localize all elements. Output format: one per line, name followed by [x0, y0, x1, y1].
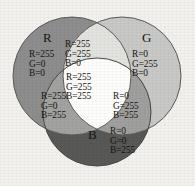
region-values-white: R=255 G=255 B=255	[66, 73, 92, 102]
region-values-red: R=255 G=0 B=0	[29, 50, 54, 79]
circle-label-blue: B	[88, 128, 97, 141]
region-values-blue: R=0 G=0 B=255	[110, 127, 135, 156]
region-values-cyan: R=0 G=255 B=255	[113, 92, 139, 121]
region-values-green: R=0 G=255 B=0	[132, 50, 158, 79]
circle-label-red: R	[43, 31, 52, 44]
circle-label-green: G	[142, 31, 151, 44]
venn-diagram-svg	[0, 0, 195, 186]
rgb-venn-diagram-figure: R G B R=255 G=0 B=0 R=0 G=255 B=0 R=0 G=…	[0, 0, 195, 186]
region-values-yellow: R=255 G=255 B=0	[65, 40, 91, 69]
region-values-magenta: R=255 G=0 B=255	[41, 92, 66, 121]
